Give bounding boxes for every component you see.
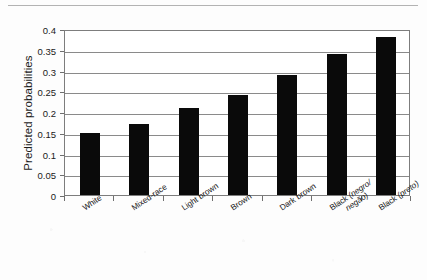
y-axis-tick-label: 0.35	[10, 45, 56, 56]
bar	[327, 54, 347, 195]
x-axis-tick-mark	[64, 196, 65, 201]
x-axis-tick-mark	[410, 196, 411, 201]
y-axis-tick-label: 0	[10, 191, 56, 202]
bar	[228, 95, 248, 195]
y-axis-tick-label: 0.15	[10, 128, 56, 139]
bar	[376, 37, 396, 195]
y-axis-tick-label: 0.05	[10, 170, 56, 181]
y-axis-tick-label: 0.25	[10, 87, 56, 98]
bar	[277, 75, 297, 195]
bar	[129, 124, 149, 195]
gridline	[65, 73, 409, 74]
y-axis-tick-label: 0.3	[10, 66, 56, 77]
y-axis-tick-label: 0.2	[10, 108, 56, 119]
x-axis-tick-mark	[212, 196, 213, 201]
plot-area	[64, 30, 410, 196]
gridline	[65, 93, 409, 94]
x-axis-tick-mark	[163, 196, 164, 201]
top-horizontal-rule	[8, 5, 418, 6]
x-axis-tick-mark	[311, 196, 312, 201]
bar	[179, 108, 199, 195]
gridline	[65, 52, 409, 53]
x-axis-tick-mark	[262, 196, 263, 201]
y-axis-tick-label: 0.4	[10, 25, 56, 36]
y-axis-tick-label: 0.1	[10, 149, 56, 160]
figure-container: Predicted probabilities 00.050.10.150.20…	[0, 0, 427, 280]
x-axis-tick-mark	[113, 196, 114, 201]
x-axis-tick-label: White	[81, 193, 103, 212]
bar	[80, 133, 100, 195]
